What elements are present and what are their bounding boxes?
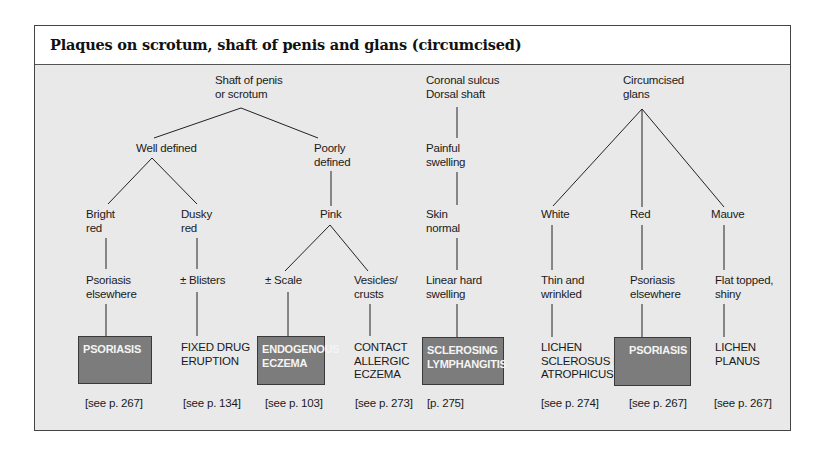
node-poorly-defined: Poorly defined <box>314 142 350 169</box>
node-text: Vesicles/ <box>354 274 398 288</box>
diagnosis-contact-allergic-eczema: CONTACT ALLERGIC ECZEMA <box>354 341 409 382</box>
page-ref: [see p. 267] <box>714 397 772 409</box>
node-thin-wrinkled: Thin and wrinkled <box>541 274 584 301</box>
node-text: crusts <box>354 288 398 302</box>
node-text: Coronal sulcus <box>426 74 499 88</box>
node-skin-normal: Skin normal <box>426 208 460 235</box>
page-ref: [see p. 103] <box>265 397 323 409</box>
node-text: Dorsal shaft <box>426 88 499 102</box>
diagnosis-label: ENDOGENOUS ECZEMA <box>262 343 339 370</box>
node-pink: Pink <box>320 208 342 222</box>
node-text: red <box>181 222 212 236</box>
diagnosis-label: PSORIASIS <box>629 344 687 358</box>
node-flat-topped: Flat topped, shiny <box>715 274 773 301</box>
diagnosis-fixed-drug-eruption: FIXED DRUG ERUPTION <box>181 341 250 368</box>
node-text: elsewhere <box>630 288 681 302</box>
node-text: Thin and <box>541 274 584 288</box>
diagnosis-box-sclerosing-lymphangitis: SCLEROSING LYMPHANGITIS <box>422 337 504 385</box>
page-ref: [see p. 134] <box>183 397 241 409</box>
node-dusky-red: Dusky red <box>181 208 212 235</box>
node-text: Skin <box>426 208 460 222</box>
page-ref: [see p. 273] <box>355 397 413 409</box>
node-text: defined <box>314 156 350 170</box>
node-vesicles-crusts: Vesicles/ crusts <box>354 274 398 301</box>
node-text: Shaft of penis <box>215 74 283 88</box>
node-text: red <box>86 222 115 236</box>
node-bright-red: Bright red <box>86 208 115 235</box>
node-text: Poorly <box>314 142 350 156</box>
diagnosis-box-endogenous-eczema: ENDOGENOUS ECZEMA <box>257 336 325 385</box>
node-text: shiny <box>715 288 773 302</box>
node-coronal-root: Coronal sulcus Dorsal shaft <box>426 74 499 101</box>
node-text: Psoriasis <box>630 274 681 288</box>
node-text: Psoriasis <box>86 274 137 288</box>
node-white: White <box>541 208 569 222</box>
diagnosis-label: PSORIASIS <box>83 343 141 357</box>
node-text: swelling <box>426 288 482 302</box>
page-ref: [see p. 267] <box>85 397 143 409</box>
page-ref: [see p. 267] <box>629 397 687 409</box>
node-psoriasis-elsewhere-glans: Psoriasis elsewhere <box>630 274 681 301</box>
node-well-defined: Well defined <box>136 142 197 156</box>
node-red: Red <box>630 208 651 222</box>
page-ref: [p. 275] <box>427 397 464 409</box>
node-text: elsewhere <box>86 288 137 302</box>
diagnosis-label: SCLEROSING LYMPHANGITIS <box>427 344 507 371</box>
node-text: Painful <box>426 142 465 156</box>
node-text: glans <box>623 88 684 102</box>
node-text: normal <box>426 222 460 236</box>
node-text: Bright <box>86 208 115 222</box>
node-text: Linear hard <box>426 274 482 288</box>
page-ref: [see p. 274] <box>541 397 599 409</box>
node-scale: ± Scale <box>265 274 302 288</box>
node-text: Circumcised <box>623 74 684 88</box>
node-text: wrinkled <box>541 288 584 302</box>
node-shaft-root: Shaft of penis or scrotum <box>215 74 283 101</box>
node-mauve: Mauve <box>711 208 745 222</box>
diagnosis-lichen-planus: LICHEN PLANUS <box>715 341 760 368</box>
node-text: or scrotum <box>215 88 283 102</box>
diagnosis-box-psoriasis: PSORIASIS <box>78 336 152 384</box>
node-text: Dusky <box>181 208 212 222</box>
node-text: swelling <box>426 156 465 170</box>
node-linear-hard-swelling: Linear hard swelling <box>426 274 482 301</box>
connector-lines <box>0 0 823 453</box>
diagnosis-box-psoriasis-glans: PSORIASIS <box>614 337 691 386</box>
node-glans-root: Circumcised glans <box>623 74 684 101</box>
node-painful-swelling: Painful swelling <box>426 142 465 169</box>
node-psoriasis-elsewhere: Psoriasis elsewhere <box>86 274 137 301</box>
node-blisters: ± Blisters <box>180 274 225 288</box>
node-text: Flat topped, <box>715 274 773 288</box>
